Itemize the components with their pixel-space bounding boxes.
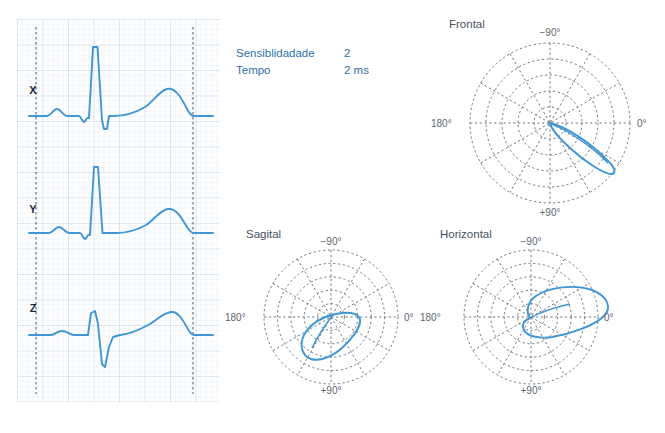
ecg-canvas: X Y Z	[17, 19, 220, 402]
sensitivity-value: 2	[344, 45, 350, 62]
lead-y-label: Y	[29, 203, 37, 215]
parameter-row-sensitivity: Sensiblidadade 2	[236, 45, 406, 62]
horizontal-label-bottom: +90°	[521, 385, 542, 396]
frontal-label-left: 180°	[431, 118, 452, 129]
polar-plot-frontal: Frontal −90° +90° 180° 0°	[455, 28, 645, 218]
horizontal-label-top: −90°	[521, 236, 542, 247]
polar-frontal-canvas: −90° +90° 180° 0°	[455, 28, 645, 218]
sagital-qrs-loop-inner	[312, 316, 332, 348]
frontal-label-top: −90°	[540, 27, 561, 38]
polar-plot-sagital: Sagital −90° +90° 180° 0°	[252, 238, 410, 396]
figure-caption	[8, 424, 648, 433]
sagital-label-left: 180°	[225, 312, 246, 323]
parameter-block: Sensiblidadade 2 Tempo 2 ms	[236, 45, 406, 79]
horizontal-qrs-loop-inner	[530, 304, 570, 318]
ecg-strip: X Y Z	[17, 19, 220, 402]
time-label: Tempo	[236, 62, 271, 79]
sagital-label-bottom: +90°	[321, 385, 342, 396]
frontal-label-bottom: +90°	[540, 207, 561, 218]
lead-z-label: Z	[30, 302, 37, 314]
parameter-row-time: Tempo 2 ms	[236, 62, 406, 79]
polar-horizontal-canvas: −90° +90° 180° 0°	[452, 238, 610, 396]
sagital-label-right: 0°	[404, 312, 414, 323]
horizontal-label-left: 180°	[420, 312, 441, 323]
frontal-qrs-loop	[550, 123, 614, 174]
polar-plot-horizontal: Horizontal −90° +90° 180° 0°	[452, 238, 610, 396]
polar-horizontal-title: Horizontal	[440, 228, 492, 240]
polar-sagital-canvas: −90° +90° 180° 0°	[252, 238, 410, 396]
ecg-grid	[17, 19, 220, 402]
time-value: 2 ms	[344, 62, 369, 79]
sensitivity-label: Sensiblidadade	[236, 45, 315, 62]
vectorcardiogram-figure: X Y Z Sensiblidadade 2 Tempo 2 ms	[0, 0, 665, 433]
polar-frontal-title: Frontal	[449, 18, 485, 30]
horizontal-label-right: 0°	[604, 312, 614, 323]
sagital-label-top: −90°	[321, 236, 342, 247]
polar-sagital-title: Sagital	[246, 228, 281, 240]
lead-x-label: X	[29, 84, 37, 96]
frontal-label-right: 0°	[637, 118, 647, 129]
